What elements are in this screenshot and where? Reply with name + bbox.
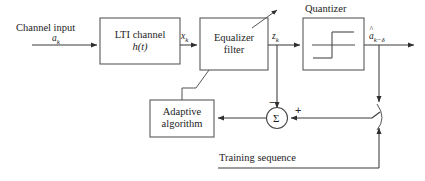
adaptive-algorithm-line2: algorithm <box>150 118 214 130</box>
equalizer-filter-line1: Equalizer <box>200 32 268 44</box>
training-sequence-label: Training sequence <box>219 152 296 164</box>
adaptive-algorithm-line1: Adaptive <box>150 106 214 118</box>
decision-hat-mark: ^ <box>369 26 374 35</box>
channel-output-symbol: xk <box>181 31 188 45</box>
adaptive-equalizer-diagram: Channel input ak LTI channel h(t) xk Equ… <box>0 0 425 181</box>
channel-input-symbol-sub: k <box>57 38 60 46</box>
equalizer-filter-line2: filter <box>200 44 268 56</box>
sum-minus-sign: − <box>269 97 275 108</box>
mode-selector-switch[interactable] <box>372 104 382 130</box>
lti-channel-label: LTI channel h(t) <box>100 29 180 53</box>
channel-input-label: Channel input <box>16 22 75 34</box>
quantizer-block <box>303 18 364 70</box>
sum-plus-sign: + <box>295 105 301 116</box>
wire-adaptive-to-equalizer <box>182 70 209 100</box>
quantizer-label: Quantizer <box>305 3 346 15</box>
sigma-symbol: Σ <box>273 113 279 124</box>
decision-output-symbol: ^ak−δ <box>369 31 385 45</box>
equalizer-output-symbol: zk <box>272 31 279 45</box>
decision-symbol-wrap: ^a <box>369 31 374 42</box>
equalizer-filter-label: Equalizer filter <box>200 32 268 56</box>
decision-symbol-sub: k−δ <box>374 36 385 44</box>
lti-channel-line2: h(t) <box>100 41 180 53</box>
adaptive-algorithm-label: Adaptive algorithm <box>150 106 214 130</box>
equalizer-output-symbol-sub: k <box>276 36 279 44</box>
lti-channel-line1: LTI channel <box>100 29 180 41</box>
channel-output-symbol-sub: k <box>185 36 188 44</box>
channel-input-symbol: ak <box>52 33 60 47</box>
